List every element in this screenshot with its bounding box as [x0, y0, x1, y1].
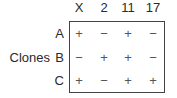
cell-a-x: + [67, 26, 91, 42]
column-header-2: 2 [92, 0, 116, 16]
cell-c-x: + [67, 73, 91, 89]
row-label-c: C [52, 73, 64, 89]
cell-c-2: − [92, 73, 116, 89]
cell-b-17: − [141, 50, 165, 66]
cell-b-2: + [92, 50, 116, 66]
column-header-17: 17 [141, 0, 165, 16]
cell-a-2: − [92, 26, 116, 42]
column-header-11: 11 [116, 0, 140, 16]
column-header-x: X [67, 0, 91, 16]
row-label-a: A [52, 26, 64, 42]
cell-a-11: + [116, 26, 140, 42]
cell-b-11: + [116, 50, 140, 66]
cell-b-x: − [67, 50, 91, 66]
cell-a-17: − [141, 26, 165, 42]
row-label-b: B [52, 50, 64, 66]
cell-c-11: + [116, 73, 140, 89]
cell-c-17: + [141, 73, 165, 89]
row-group-label: Clones [8, 50, 50, 66]
